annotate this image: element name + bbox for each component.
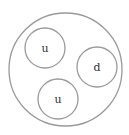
quark-up-1: u <box>25 28 65 68</box>
quark-label: d <box>93 61 100 74</box>
proton-diagram: u d u <box>0 0 129 135</box>
quark-label: u <box>41 42 48 55</box>
quark-label: u <box>54 93 61 106</box>
quark-up-2: u <box>38 79 78 119</box>
hadron-outer-circle <box>9 13 122 126</box>
quark-down: d <box>77 47 117 87</box>
